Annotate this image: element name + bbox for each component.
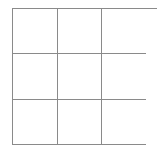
cell-r1-c2[interactable] bbox=[58, 9, 102, 54]
cell-r1-c1[interactable] bbox=[13, 9, 58, 54]
cell-r3-c2[interactable] bbox=[58, 100, 102, 145]
cell-r2-c3[interactable] bbox=[102, 54, 145, 100]
cell-r2-c2[interactable] bbox=[58, 54, 102, 100]
cell-r3-c1[interactable] bbox=[13, 100, 58, 145]
cell-r1-c3[interactable] bbox=[102, 9, 145, 54]
cell-r2-c1[interactable] bbox=[13, 54, 58, 100]
tic-tac-toe-board bbox=[12, 8, 145, 145]
cell-r3-c3[interactable] bbox=[102, 100, 145, 145]
